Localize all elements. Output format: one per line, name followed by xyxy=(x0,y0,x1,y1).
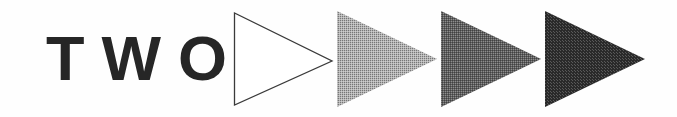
triangle-4-shape xyxy=(545,11,645,107)
figure-canvas: TWO xyxy=(0,0,677,117)
triangle-1-shape xyxy=(235,13,333,105)
triangle-4-black xyxy=(545,11,646,107)
triangle-3-medium-gray xyxy=(441,11,542,107)
triangle-row xyxy=(0,0,677,117)
triangle-1-outline xyxy=(233,11,334,107)
triangle-2-shape xyxy=(337,11,437,107)
triangle-3-shape xyxy=(441,11,541,107)
triangle-2-light-gray xyxy=(337,11,438,107)
